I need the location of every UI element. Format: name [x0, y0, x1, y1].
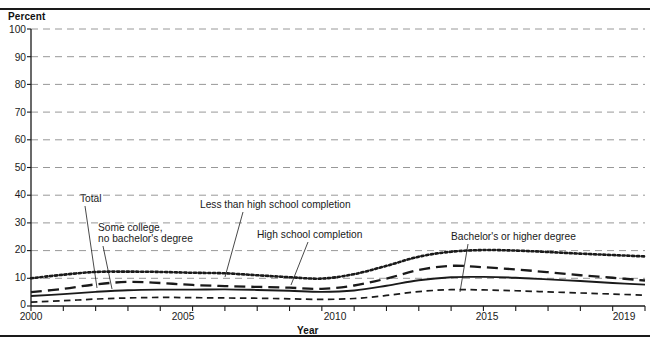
x-tick-marks-group: [31, 306, 645, 311]
gridlines-group: [31, 29, 645, 278]
annotation-leader-lines-group: [85, 206, 468, 292]
annotation-leader-line: [85, 206, 97, 288]
data-series-line: [31, 250, 645, 279]
annotation-leader-line: [225, 212, 243, 277]
chart-plot-area: [0, 0, 650, 344]
data-series-line: [31, 277, 645, 296]
data-series-group: [31, 250, 645, 302]
figure-container: Percent Year 100 90 80 70 60 50 40 30 20…: [0, 0, 650, 344]
